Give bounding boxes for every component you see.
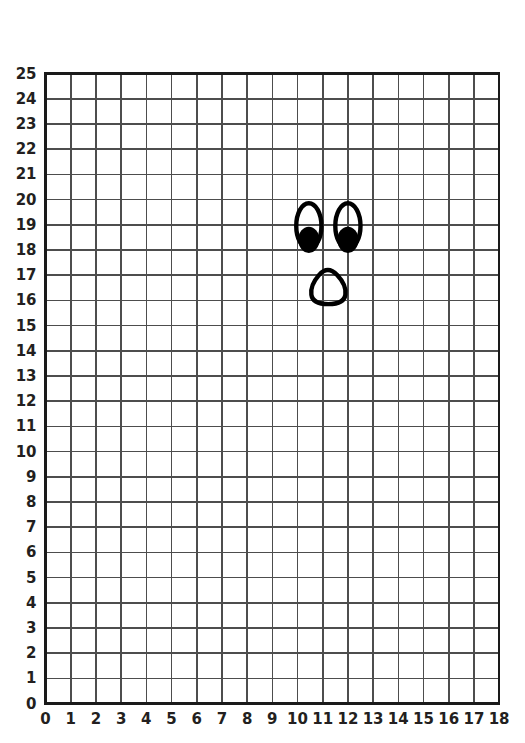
y-tick-label-24: 24: [16, 91, 37, 106]
y-tick-label-5: 5: [26, 570, 36, 585]
y-tick-label-0: 0: [26, 696, 36, 711]
y-tick-label-21: 21: [16, 167, 37, 182]
y-tick-label-13: 13: [16, 368, 37, 383]
y-tick-label-14: 14: [16, 343, 37, 358]
x-tick-label-4: 4: [141, 712, 151, 727]
y-tick-label-3: 3: [26, 620, 36, 635]
x-tick-label-14: 14: [388, 712, 409, 727]
grid-lines: [46, 74, 500, 704]
y-tick-label-1: 1: [26, 671, 36, 686]
y-tick-label-17: 17: [16, 268, 37, 283]
y-tick-label-16: 16: [16, 293, 37, 308]
y-tick-label-11: 11: [16, 419, 37, 434]
x-tick-label-18: 18: [489, 712, 510, 727]
x-tick-label-13: 13: [363, 712, 384, 727]
x-tick-label-5: 5: [166, 712, 176, 727]
coordinate-grid-worksheet: 0123456789101112131415161718192021222324…: [0, 0, 525, 743]
x-tick-label-7: 7: [217, 712, 227, 727]
y-tick-label-2: 2: [26, 646, 36, 661]
y-tick-label-10: 10: [16, 444, 37, 459]
y-tick-label-23: 23: [16, 116, 37, 131]
x-tick-label-0: 0: [40, 712, 50, 727]
left-eye-pupil: [298, 227, 319, 253]
grid-canvas: [0, 0, 525, 743]
y-tick-label-6: 6: [26, 545, 36, 560]
y-tick-label-12: 12: [16, 394, 37, 409]
y-tick-label-25: 25: [16, 66, 37, 81]
x-tick-label-12: 12: [337, 712, 358, 727]
right-eye-pupil: [337, 227, 358, 253]
face-drawing: [296, 203, 360, 304]
x-tick-label-3: 3: [116, 712, 126, 727]
y-tick-label-7: 7: [26, 520, 36, 535]
y-tick-label-15: 15: [16, 318, 37, 333]
x-tick-label-8: 8: [242, 712, 252, 727]
y-tick-label-8: 8: [26, 494, 36, 509]
x-tick-label-2: 2: [91, 712, 101, 727]
y-tick-label-9: 9: [26, 469, 36, 484]
y-tick-label-4: 4: [26, 595, 36, 610]
x-tick-label-9: 9: [267, 712, 277, 727]
y-tick-label-18: 18: [16, 242, 37, 257]
y-tick-label-22: 22: [16, 142, 37, 157]
x-tick-label-11: 11: [312, 712, 333, 727]
x-tick-label-17: 17: [463, 712, 484, 727]
x-tick-label-1: 1: [65, 712, 75, 727]
x-tick-label-10: 10: [287, 712, 308, 727]
x-tick-label-6: 6: [191, 712, 201, 727]
y-tick-label-20: 20: [16, 192, 37, 207]
y-tick-label-19: 19: [16, 217, 37, 232]
x-tick-label-15: 15: [413, 712, 434, 727]
x-tick-label-16: 16: [438, 712, 459, 727]
